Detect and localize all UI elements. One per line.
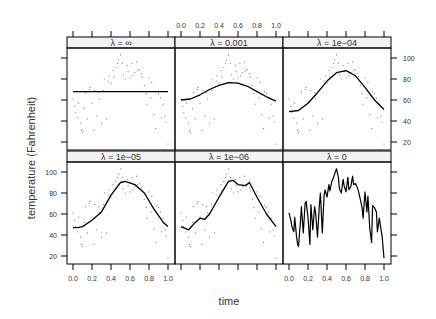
data-point bbox=[98, 92, 99, 93]
panel-2: λ = 0.001 bbox=[175, 37, 283, 150]
x-tick-label: 1.0 bbox=[379, 275, 389, 282]
data-point bbox=[198, 201, 199, 202]
data-point bbox=[101, 123, 102, 124]
data-point bbox=[155, 128, 156, 129]
data-point bbox=[118, 60, 119, 61]
data-point bbox=[331, 67, 332, 68]
panel-strip-label: λ = ∞ bbox=[110, 38, 131, 48]
data-point bbox=[247, 69, 248, 70]
data-point bbox=[355, 69, 356, 70]
data-point bbox=[230, 63, 231, 64]
data-point bbox=[192, 222, 193, 223]
data-point bbox=[352, 62, 353, 63]
data-point bbox=[360, 85, 361, 86]
data-point bbox=[240, 189, 241, 190]
data-point bbox=[294, 103, 295, 104]
data-point bbox=[201, 130, 202, 131]
data-point bbox=[136, 62, 137, 63]
data-point bbox=[75, 112, 76, 113]
data-point bbox=[209, 123, 210, 124]
data-point bbox=[305, 89, 306, 90]
fit-curve bbox=[289, 169, 384, 258]
data-point bbox=[244, 62, 245, 63]
panel-strip-label: λ = 1e−04 bbox=[317, 38, 357, 48]
data-point bbox=[301, 92, 302, 93]
data-point bbox=[90, 87, 91, 88]
data-point bbox=[127, 179, 128, 180]
data-point bbox=[212, 78, 213, 79]
panel-strip-label: λ = 1e−06 bbox=[209, 152, 249, 162]
x-tick-label: 0.0 bbox=[68, 275, 78, 282]
data-point bbox=[269, 117, 270, 118]
data-point bbox=[239, 63, 240, 64]
data-point bbox=[78, 103, 79, 104]
data-point bbox=[166, 121, 167, 122]
data-point bbox=[150, 97, 151, 98]
data-point bbox=[82, 246, 83, 247]
data-point bbox=[320, 78, 321, 79]
data-point bbox=[363, 104, 364, 105]
data-point bbox=[120, 54, 121, 55]
data-point bbox=[275, 258, 276, 259]
data-point bbox=[256, 77, 257, 78]
y-tick-label: 100 bbox=[45, 169, 57, 176]
data-point bbox=[339, 74, 340, 75]
data-point bbox=[343, 65, 344, 66]
y-tick-label: 100 bbox=[403, 55, 415, 62]
data-point bbox=[192, 108, 193, 109]
data-point bbox=[106, 118, 107, 119]
data-point bbox=[186, 217, 187, 218]
data-point bbox=[231, 74, 232, 75]
data-point bbox=[74, 220, 75, 221]
data-point bbox=[190, 246, 191, 247]
data-point bbox=[258, 211, 259, 212]
x-tick-label: 0.6 bbox=[341, 275, 351, 282]
data-point bbox=[259, 82, 260, 83]
data-point bbox=[220, 184, 221, 185]
data-point bbox=[180, 212, 181, 213]
data-point bbox=[146, 93, 147, 94]
data-point bbox=[118, 174, 119, 175]
data-point bbox=[146, 207, 147, 208]
data-point bbox=[87, 232, 88, 233]
data-point bbox=[206, 92, 207, 93]
data-point bbox=[259, 196, 260, 197]
data-point bbox=[77, 117, 78, 118]
data-point bbox=[182, 220, 183, 221]
data-point bbox=[72, 98, 73, 99]
data-point bbox=[139, 183, 140, 184]
data-point bbox=[317, 123, 318, 124]
data-point bbox=[153, 228, 154, 229]
data-point bbox=[291, 112, 292, 113]
panel-5: λ = 1e−06 bbox=[175, 151, 283, 264]
fit-curve bbox=[181, 180, 276, 229]
data-point bbox=[93, 130, 94, 131]
panel-6: λ = 0 bbox=[283, 151, 391, 264]
panel-1: λ = ∞ bbox=[67, 37, 175, 150]
data-point bbox=[141, 187, 142, 188]
data-point bbox=[263, 242, 264, 243]
data-point bbox=[198, 87, 199, 88]
data-point bbox=[297, 130, 298, 131]
data-point bbox=[112, 184, 113, 185]
panel-frame bbox=[283, 162, 391, 264]
data-point bbox=[167, 258, 168, 259]
data-point bbox=[75, 226, 76, 227]
data-point bbox=[77, 231, 78, 232]
data-point bbox=[231, 188, 232, 189]
data-point bbox=[212, 192, 213, 193]
data-point bbox=[104, 192, 105, 193]
y-tick-label: 20 bbox=[49, 253, 57, 260]
data-point bbox=[252, 85, 253, 86]
data-point bbox=[269, 231, 270, 232]
x-tick-label: 0.8 bbox=[360, 275, 370, 282]
data-point bbox=[345, 77, 346, 78]
data-point bbox=[199, 103, 200, 104]
data-point bbox=[89, 203, 90, 204]
x-tick-label: 0.8 bbox=[252, 22, 262, 29]
data-point bbox=[137, 70, 138, 71]
data-point bbox=[134, 72, 135, 73]
data-point bbox=[131, 63, 132, 64]
data-point bbox=[310, 90, 311, 91]
panel-4: λ = 1e−05 bbox=[67, 151, 175, 264]
